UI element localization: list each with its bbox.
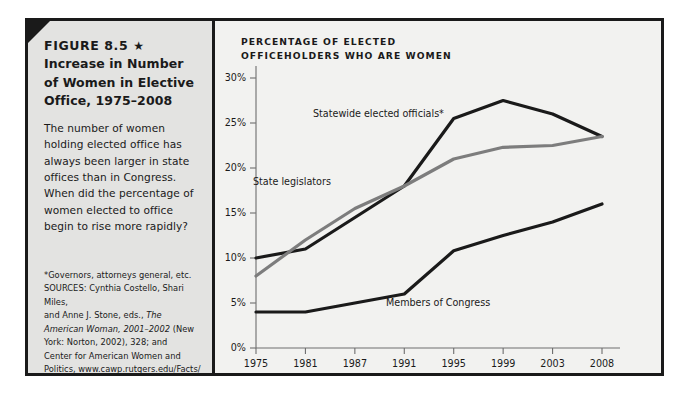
chart-panel: PERCENTAGE OF ELECTED OFFICEHOLDERS WHO … [215, 21, 661, 373]
series-line [256, 137, 602, 277]
figure-title: Increase in Number of Women in Elective … [44, 55, 197, 109]
sources-block: SOURCES: Cynthia Costello, Shari Miles, … [44, 282, 202, 373]
y-tick-label: 0% [231, 342, 246, 353]
x-tick-label: 1991 [392, 358, 416, 369]
caption-notes: *Governors, attorneys general, etc. SOUR… [44, 269, 202, 373]
sources-line-5: Center for American Women and [44, 351, 181, 361]
figure-number: FIGURE 8.5 ★ [44, 37, 197, 55]
line-chart: 0%5%10%15%20%25%30%197519811987199119951… [215, 21, 661, 373]
caption-panel: FIGURE 8.5 ★ Increase in Number of Women… [28, 21, 215, 373]
x-tick-label: 1995 [442, 358, 466, 369]
figure-container: FIGURE 8.5 ★ Increase in Number of Women… [0, 0, 689, 394]
figure-number-label: FIGURE 8.5 [44, 38, 128, 53]
sources-line-4: York: Norton, 2002), 328; and [44, 337, 167, 347]
sources-line-1: SOURCES: Cynthia Costello, Shari Miles, [44, 283, 184, 306]
x-tick-label: 1975 [244, 358, 268, 369]
sources-italic-2: American Woman, 2001–2002 [44, 324, 170, 334]
y-tick-label: 10% [225, 252, 246, 263]
x-tick-label: 2003 [540, 358, 564, 369]
sources-line-3: (New [170, 324, 194, 334]
star-icon: ★ [133, 39, 144, 53]
y-tick-label: 5% [231, 297, 246, 308]
figure-frame: FIGURE 8.5 ★ Increase in Number of Women… [25, 18, 664, 376]
series-annotation-label: Members of Congress [386, 297, 490, 308]
series-line [256, 204, 602, 312]
x-tick-label: 2008 [590, 358, 614, 369]
y-tick-label: 20% [225, 162, 246, 173]
y-tick-label: 15% [225, 207, 246, 218]
series-annotation-label: Statewide elected officials* [313, 108, 444, 119]
figure-body-text: The number of women holding elected offi… [44, 120, 197, 235]
sources-italic-1: The [146, 310, 162, 320]
sources-line-2: and Anne J. Stone, eds., [44, 310, 146, 320]
corner-triangle-icon [28, 21, 50, 43]
x-tick-label: 1999 [491, 358, 515, 369]
series-annotation-label: State legislators [253, 176, 331, 187]
sources-line-6: Politics, www.cawp.rutgers.edu/Facts/ [44, 364, 201, 373]
y-tick-label: 25% [225, 117, 246, 128]
x-tick-label: 1987 [343, 358, 367, 369]
y-tick-label: 30% [225, 72, 246, 83]
figure-footnote: *Governors, attorneys general, etc. [44, 269, 202, 282]
x-tick-label: 1981 [293, 358, 317, 369]
